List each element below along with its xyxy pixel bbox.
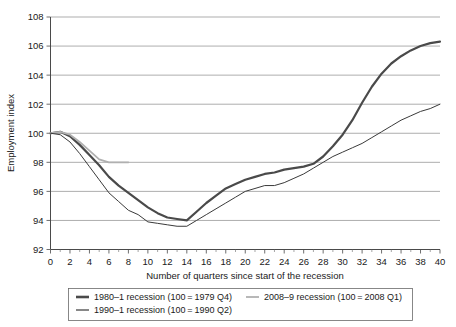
x-tick-label: 12 (162, 256, 173, 267)
series-line-1 (51, 42, 441, 221)
legend-label-1: 1980–1 recession (100 = 1979 Q4) (94, 292, 232, 302)
x-tick-label: 32 (357, 256, 368, 267)
y-tick-label: 108 (28, 11, 44, 22)
x-tick-label: 0 (48, 256, 53, 267)
x-tick-marks (51, 250, 441, 254)
x-tick-label: 26 (298, 256, 309, 267)
data-series-group (51, 42, 441, 227)
gridlines-group (51, 17, 441, 250)
y-tick-label: 106 (28, 40, 44, 51)
y-tick-label: 94 (33, 215, 44, 226)
legend-label-3: 1990–1 recession (100 = 1990 Q2) (94, 305, 232, 315)
chart-svg: 92949698100102104106108 0246810121416182… (0, 0, 456, 327)
x-axis-group: 0246810121416182022242628303234363840 (48, 250, 445, 267)
series-line-3 (51, 104, 441, 226)
x-tick-label: 34 (376, 256, 387, 267)
y-axis-group: 92949698100102104106108 (28, 11, 51, 255)
y-axis-title: Employment index (5, 94, 16, 172)
x-tick-label: 20 (240, 256, 251, 267)
x-axis-title: Number of quarters since start of the re… (146, 270, 343, 281)
x-tick-label: 8 (126, 256, 131, 267)
x-tick-label: 6 (106, 256, 111, 267)
y-tick-label: 92 (33, 244, 44, 255)
y-tick-label: 100 (28, 128, 44, 139)
employment-index-chart-figure: 92949698100102104106108 0246810121416182… (0, 0, 456, 327)
y-tick-label: 98 (33, 157, 44, 168)
x-tick-labels: 0246810121416182022242628303234363840 (48, 256, 445, 267)
x-tick-label: 18 (220, 256, 231, 267)
x-tick-label: 36 (396, 256, 407, 267)
x-tick-label: 10 (143, 256, 154, 267)
y-tick-label: 104 (28, 70, 44, 81)
x-tick-label: 4 (87, 256, 92, 267)
y-tick-label: 96 (33, 186, 44, 197)
x-tick-label: 30 (337, 256, 348, 267)
x-tick-label: 16 (201, 256, 212, 267)
x-tick-label: 28 (318, 256, 329, 267)
x-tick-label: 24 (279, 256, 290, 267)
x-tick-label: 22 (259, 256, 270, 267)
x-tick-label: 40 (435, 256, 446, 267)
x-tick-label: 14 (182, 256, 193, 267)
legend-items: 1980–1 recession (100 = 1979 Q4)2008–9 r… (76, 292, 402, 315)
legend-label-2: 2008–9 recession (100 = 2008 Q1) (264, 292, 402, 302)
y-tick-label: 102 (28, 99, 44, 110)
y-tick-labels: 92949698100102104106108 (28, 11, 44, 255)
x-tick-label: 38 (415, 256, 426, 267)
legend: 1980–1 recession (100 = 1979 Q4)2008–9 r… (69, 289, 413, 321)
x-tick-label: 2 (67, 256, 72, 267)
